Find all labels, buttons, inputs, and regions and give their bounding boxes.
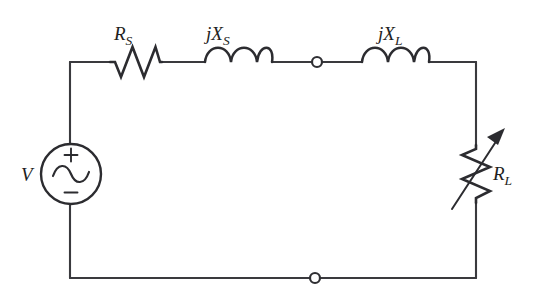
terminal-node-top-circle: [312, 57, 322, 67]
variable-resistor-rl[interactable]: RL: [452, 128, 512, 209]
inductor-jxs-coils: [205, 48, 272, 62]
wire-group: [70, 62, 476, 278]
inductor-jxl[interactable]: jXL: [362, 23, 429, 62]
terminal-node-bottom-circle: [310, 273, 320, 283]
inductor-jxl-label: jXL: [375, 23, 402, 48]
resistor-rs-zigzag: [110, 47, 162, 77]
voltage-source[interactable]: V: [21, 144, 101, 204]
inductor-jxl-coils: [362, 48, 429, 62]
variable-resistor-rl-label: RL: [492, 163, 512, 188]
resistor-rs[interactable]: RS: [110, 23, 162, 77]
source-label: V: [21, 164, 35, 185]
inductor-jxs[interactable]: jXS: [203, 23, 272, 62]
terminal-node-bottom[interactable]: [310, 273, 320, 283]
inductor-jxs-label: jXS: [203, 23, 230, 48]
resistor-rs-label: RS: [113, 23, 133, 48]
terminal-node-top[interactable]: [312, 57, 322, 67]
circuit-diagram: V RS jXS jXL RL: [0, 0, 539, 303]
